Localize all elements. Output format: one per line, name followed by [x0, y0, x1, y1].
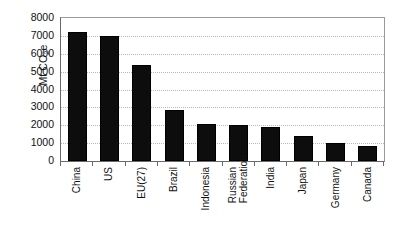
x-axis-category-label: EU(27) — [136, 167, 147, 199]
y-axis-tick-label: 7000 — [20, 29, 54, 41]
x-axis-label-slot: India — [255, 167, 285, 229]
x-axis-category-label: Japan — [297, 167, 308, 194]
x-axis-label-slot: Indonesia — [190, 167, 220, 229]
x-axis-label-slot: RussianFederation — [223, 167, 253, 229]
x-axis-category-label: RussianFederation — [227, 167, 238, 203]
x-axis-tick-mark — [286, 161, 287, 166]
x-axis-category-label: China — [71, 167, 82, 193]
x-axis-category-label: India — [265, 167, 276, 189]
x-axis-category-label: Brazil — [168, 167, 179, 192]
bar-slot — [352, 18, 384, 161]
x-axis-label-slot: Canada — [352, 167, 382, 229]
x-axis-tick-mark — [383, 161, 384, 166]
y-axis-tick-label: 5000 — [20, 65, 54, 77]
x-axis-tick-mark — [157, 161, 158, 166]
x-axis-tick-marks — [60, 161, 385, 166]
y-axis-tick-label: 8000 — [20, 11, 54, 23]
bar-slot — [222, 18, 254, 161]
x-axis-tick-mark — [125, 161, 126, 166]
y-axis-tick-label: 0 — [20, 154, 54, 166]
bar-slot — [158, 18, 190, 161]
x-axis-tick-mark — [318, 161, 319, 166]
bar-slot — [190, 18, 222, 161]
y-axis-tick-labels: 800070006000500040003000200010000 — [20, 11, 54, 166]
x-axis-category-label: US — [103, 167, 114, 181]
x-axis-category-label: Canada — [362, 167, 373, 202]
y-axis-tick-label: 1000 — [20, 136, 54, 148]
x-axis-label-slot: Brazil — [158, 167, 188, 229]
bar[interactable] — [197, 124, 216, 161]
x-axis-tick-mark — [92, 161, 93, 166]
x-axis-label-slot: Japan — [287, 167, 317, 229]
x-axis-tick-mark — [189, 161, 190, 166]
x-axis-tick-mark — [60, 161, 61, 166]
x-axis-label-slot: EU(27) — [126, 167, 156, 229]
x-axis-category-label-line: Russian — [227, 167, 238, 203]
bar[interactable] — [100, 36, 119, 161]
x-axis-category-labels: ChinaUSEU(27)BrazilIndonesiaRussianFeder… — [60, 167, 383, 229]
bar[interactable] — [165, 110, 184, 161]
y-axis-tick-label: 2000 — [20, 118, 54, 130]
bar-slot — [255, 18, 287, 161]
x-axis-label-slot: China — [61, 167, 91, 229]
y-axis-tick-label: 3000 — [20, 100, 54, 112]
bar[interactable] — [132, 65, 151, 161]
x-axis-category-label: Germany — [330, 167, 341, 208]
bar[interactable] — [261, 127, 280, 161]
bar-slot — [319, 18, 351, 161]
x-axis-tick-mark — [351, 161, 352, 166]
plot-area — [60, 17, 385, 162]
bar-chart: Mt CO2e 80007000600050004000300020001000… — [0, 0, 398, 230]
x-axis-category-label: Indonesia — [200, 167, 211, 210]
y-axis-tick-label: 6000 — [20, 47, 54, 59]
x-axis-label-slot: US — [93, 167, 123, 229]
bar[interactable] — [358, 146, 377, 161]
x-axis-tick-mark — [254, 161, 255, 166]
bar-slot — [287, 18, 319, 161]
bar[interactable] — [294, 136, 313, 161]
x-axis-label-slot: Germany — [320, 167, 350, 229]
y-axis-tick-label: 4000 — [20, 83, 54, 95]
x-axis-tick-mark — [222, 161, 223, 166]
x-axis-category-label-line: Federation — [238, 155, 249, 203]
bar-slot — [126, 18, 158, 161]
bars-container — [61, 18, 384, 161]
bar-slot — [93, 18, 125, 161]
bar[interactable] — [68, 32, 87, 161]
bar-slot — [61, 18, 93, 161]
bar[interactable] — [326, 143, 345, 161]
